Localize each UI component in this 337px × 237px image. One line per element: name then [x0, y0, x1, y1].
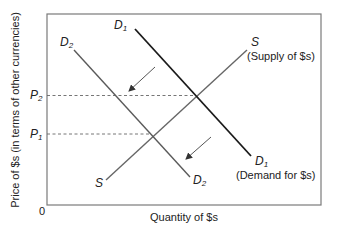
p1-tick-label: P1	[30, 127, 42, 142]
shift-arrow-lower-icon	[186, 137, 211, 159]
s-top-label: S	[251, 35, 259, 49]
demand-description: (Demand for $s)	[236, 169, 315, 181]
x-axis-label: Quantity of $s	[150, 211, 218, 223]
supply-description: (Supply of $s)	[247, 50, 315, 62]
exchange-rate-chart: D1 D2 S (Supply of $s) S D1 (Demand for …	[0, 0, 337, 237]
origin-label: 0	[39, 205, 45, 217]
d2-bottom-label: D2	[193, 173, 207, 188]
d1-bottom-label: D1	[255, 154, 268, 169]
d1-top-label: D1	[114, 18, 127, 33]
d2-top-label: D2	[60, 35, 74, 50]
y-axis-label: Price of $s (in terms of other currencie…	[9, 12, 21, 208]
supply-curve	[106, 50, 247, 180]
s-bottom-label: S	[95, 176, 103, 190]
p2-tick-label: P2	[30, 88, 43, 103]
shift-arrow-upper-icon	[129, 67, 155, 91]
